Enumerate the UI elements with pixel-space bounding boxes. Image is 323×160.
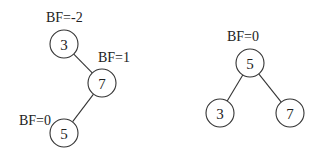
tree-node-5: 5BF=0 (19, 113, 78, 147)
balance-factor-label: BF=0 (19, 113, 51, 128)
node-value: 3 (60, 37, 68, 53)
tree-node-7: 7 (276, 99, 304, 127)
tree-edge-3-7 (74, 54, 92, 73)
tree-edge-7-5 (72, 94, 93, 122)
tree-edge-5-3 (227, 75, 243, 101)
tree-node-3: 3 (206, 99, 234, 127)
node-value: 7 (286, 106, 294, 122)
node-value: 5 (246, 56, 254, 72)
tree-edge-5-7 (259, 74, 282, 102)
balance-factor-label: BF=0 (227, 29, 259, 44)
node-value: 5 (60, 126, 68, 142)
avl-diagram: 3BF=-27BF=15BF=05BF=037 (0, 0, 323, 160)
tree-node-5: 5BF=0 (227, 29, 264, 77)
balance-factor-label: BF=-2 (46, 10, 83, 25)
tree-node-3: 3BF=-2 (46, 10, 83, 58)
nodes-layer: 3BF=-27BF=15BF=05BF=037 (19, 10, 304, 147)
node-value: 3 (216, 106, 224, 122)
node-value: 7 (98, 76, 106, 92)
balance-factor-label: BF=1 (98, 50, 130, 65)
tree-node-7: 7BF=1 (88, 50, 130, 97)
